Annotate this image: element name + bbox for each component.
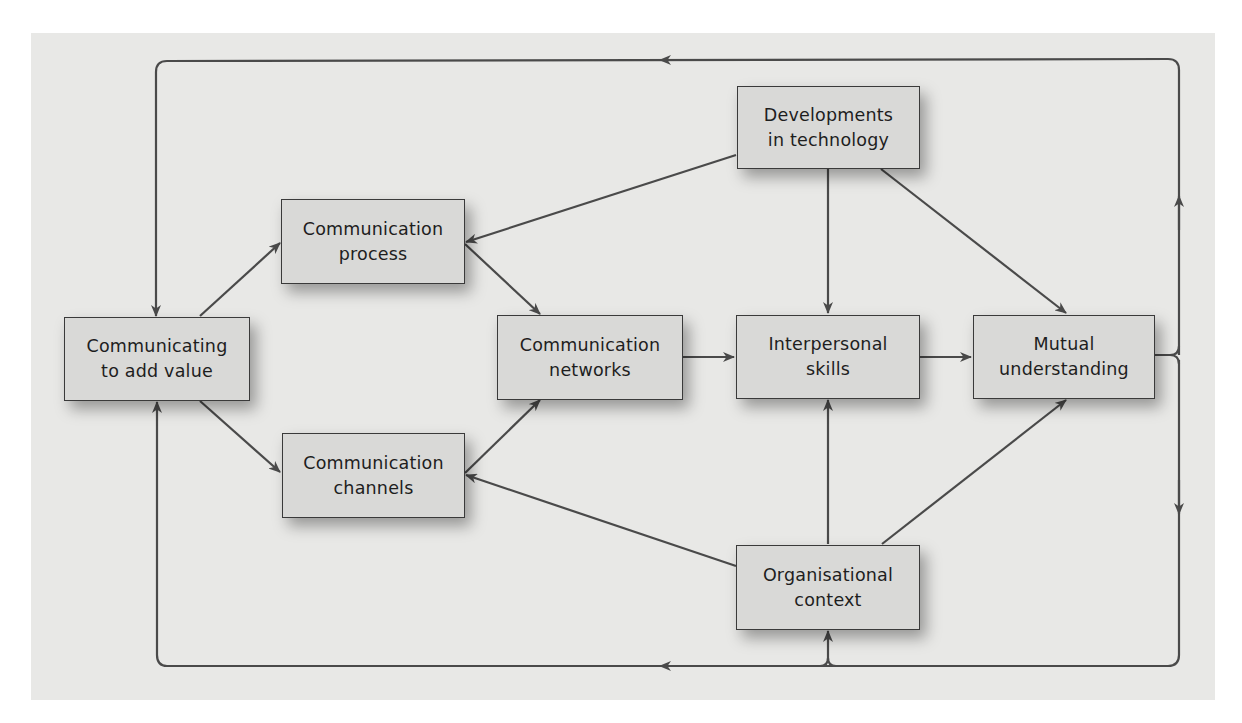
node-label-line1: Communication [303, 217, 444, 242]
node-communication-process: Communication process [281, 199, 465, 284]
node-organisational-context: Organisational context [736, 545, 920, 630]
node-label-line2: context [794, 588, 861, 613]
node-communication-channels: Communication channels [282, 433, 465, 518]
mutual-output-line [1154, 346, 1179, 355]
node-label-line2: to add value [101, 359, 213, 384]
node-communicating-to-add-value: Communicating to add value [64, 317, 250, 401]
node-label-line1: Developments [764, 103, 893, 128]
node-label-line2: channels [334, 476, 414, 501]
node-label-line2: understanding [999, 357, 1129, 382]
node-label-line2: networks [549, 358, 631, 383]
node-label-line1: Communication [303, 451, 444, 476]
node-developments-in-technology: Developments in technology [737, 86, 920, 169]
node-mutual-understanding: Mutual understanding [973, 315, 1155, 399]
node-label-line1: Mutual [1034, 332, 1095, 357]
node-communication-networks: Communication networks [497, 315, 683, 400]
node-label-line2: process [339, 242, 408, 267]
node-label-line2: in technology [768, 128, 889, 153]
node-label-line1: Organisational [763, 563, 893, 588]
node-label-line1: Communication [520, 333, 661, 358]
node-label-line2: skills [806, 357, 850, 382]
node-label-line1: Interpersonal [768, 332, 887, 357]
node-interpersonal-skills: Interpersonal skills [736, 315, 920, 399]
node-label-line1: Communicating [87, 334, 228, 359]
